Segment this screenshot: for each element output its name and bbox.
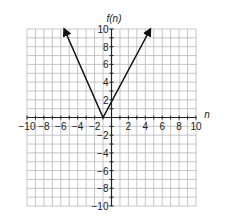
y-tick-label: 6 (103, 59, 109, 70)
y-tick-label: −10 (92, 201, 109, 212)
x-tick-label: 4 (143, 121, 149, 132)
x-tick-label: 2 (126, 121, 132, 132)
y-tick-label: 10 (97, 24, 109, 35)
x-tick-label: 10 (190, 121, 202, 132)
x-tick-label: 8 (176, 121, 182, 132)
x-tick-label: −8 (38, 121, 50, 132)
x-axis-label: n (204, 109, 210, 120)
y-tick-label: −2 (97, 130, 109, 141)
y-tick-label: −8 (97, 183, 109, 194)
x-tick-label: 6 (159, 121, 165, 132)
y-tick-label: 4 (103, 77, 109, 88)
y-axis-label: f(n) (107, 13, 122, 24)
y-tick-label: −4 (97, 148, 109, 159)
y-tick-label: −6 (97, 166, 109, 177)
x-tick-label: −10 (19, 121, 36, 132)
x-tick-label: −6 (55, 121, 67, 132)
y-tick-label: 8 (103, 42, 109, 53)
x-tick-label: −4 (72, 121, 84, 132)
y-tick-label: 2 (103, 95, 109, 106)
coordinate-grid-chart: −10−8−6−4−2246810108642−2−4−6−8−10 f(n) … (0, 0, 228, 216)
